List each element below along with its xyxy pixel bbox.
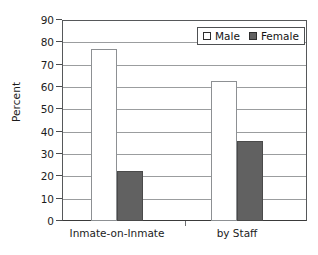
legend-item-male: Male <box>203 31 240 42</box>
legend-label-male: Male <box>215 31 240 42</box>
category-separator-tick <box>185 221 186 226</box>
open-square-swatch-icon <box>203 32 211 40</box>
y-tick-mark <box>56 108 62 109</box>
y-tick-mark <box>56 86 62 87</box>
y-tick-mark <box>56 19 62 20</box>
filled-square-swatch-icon <box>249 32 257 40</box>
legend-item-female: Female <box>249 31 299 42</box>
y-tick-mark <box>56 153 62 154</box>
y-tick-mark <box>56 198 62 199</box>
legend-label-female: Female <box>261 31 299 42</box>
bar-female-inmate-on-inmate <box>117 171 143 221</box>
y-tick-label: 60 <box>20 82 54 93</box>
y-tick-label: 20 <box>20 171 54 182</box>
y-tick-mark <box>56 64 62 65</box>
y-tick-label: 70 <box>20 60 54 71</box>
y-tick-label: 10 <box>20 194 54 205</box>
y-tick-label: 30 <box>20 149 54 160</box>
y-tick-label: 40 <box>20 127 54 138</box>
y-tick-mark <box>56 175 62 176</box>
y-tick-label: 90 <box>20 15 54 26</box>
bar-chart: Percent 9080706050403020100 Inmate-on-In… <box>0 0 318 255</box>
y-tick-label: 80 <box>20 37 54 48</box>
y-tick-mark <box>56 220 62 221</box>
y-tick-label: 0 <box>20 216 54 227</box>
bar-male-by-staff <box>211 81 237 221</box>
y-tick-label: 50 <box>20 104 54 115</box>
bar-female-by-staff <box>237 141 263 221</box>
bar-male-inmate-on-inmate <box>91 49 117 221</box>
y-tick-mark <box>56 41 62 42</box>
x-axis-label-inmate-on-inmate: Inmate-on-Inmate <box>47 228 187 239</box>
chart-legend: Male Female <box>197 27 305 45</box>
y-tick-mark <box>56 131 62 132</box>
x-axis-label-by-staff: by Staff <box>167 228 307 239</box>
